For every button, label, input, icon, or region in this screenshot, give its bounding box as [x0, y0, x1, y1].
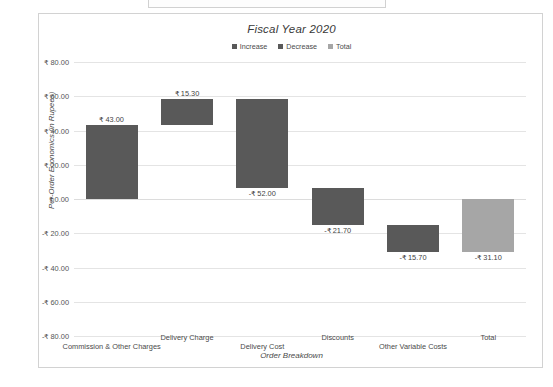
plot-area: ₹ 80.00₹ 60.00₹ 40.00₹ 20.00₹ 0.00-₹ 20.…	[74, 62, 526, 336]
bar-delivery-cost[interactable]	[236, 99, 288, 188]
legend-item-total: Total	[328, 42, 351, 51]
bar-delivery-charge[interactable]	[161, 99, 213, 125]
scan-edge-artifact	[148, 0, 386, 8]
y-axis-tick-label: ₹ 20.00	[44, 160, 69, 169]
gridline	[74, 268, 526, 269]
x-axis-tick-label: Total	[481, 333, 497, 342]
x-axis-title: Order Breakdown	[39, 351, 544, 360]
y-axis-tick-label: -₹ 40.00	[42, 263, 69, 272]
y-axis-tick-label: ₹ 60.00	[44, 92, 69, 101]
bar-commission-other-charges[interactable]	[86, 125, 138, 199]
bar-value-label: ₹ 43.00	[99, 115, 124, 124]
bar-other-variable-costs[interactable]	[387, 225, 439, 252]
bar-value-label: -₹ 15.70	[399, 253, 426, 262]
legend-item-decrease: Decrease	[278, 42, 317, 51]
y-axis-tick-label: -₹ 80.00	[42, 332, 69, 341]
bar-value-label: -₹ 31.10	[475, 253, 502, 262]
bar-value-label: ₹ 15.30	[175, 89, 200, 98]
y-axis-tick-label: ₹ 80.00	[44, 58, 69, 67]
legend-item-increase: Increase	[232, 42, 268, 51]
y-axis-title: Per-Order Economics (in Rupees)	[47, 92, 56, 209]
y-axis-tick-label: ₹ 0.00	[49, 195, 69, 204]
chart-legend: IncreaseDecreaseTotal	[39, 42, 544, 51]
gridline	[74, 336, 526, 337]
legend-item-label: Total	[336, 42, 351, 51]
legend-item-label: Decrease	[286, 42, 317, 51]
gridline	[74, 131, 526, 132]
gridline	[74, 165, 526, 166]
gridline	[74, 199, 526, 200]
bar-value-label: -₹ 21.70	[324, 226, 351, 235]
x-axis-tick-label: Commission & Other Charges	[63, 342, 161, 351]
x-axis-tick-label: Delivery Cost	[240, 342, 284, 351]
legend-swatch-icon	[278, 44, 283, 49]
legend-item-label: Increase	[240, 42, 268, 51]
y-axis-tick-label: ₹ 40.00	[44, 126, 69, 135]
y-axis-tick-label: -₹ 60.00	[42, 297, 69, 306]
gridline	[74, 302, 526, 303]
x-axis-tick-label: Delivery Charge	[161, 333, 214, 342]
bar-total[interactable]	[462, 199, 514, 252]
gridline	[74, 233, 526, 234]
bar-discounts[interactable]	[312, 188, 364, 225]
x-axis-tick-label: Discounts	[321, 333, 353, 342]
y-axis-tick-label: -₹ 20.00	[42, 229, 69, 238]
waterfall-chart: Fiscal Year 2020 IncreaseDecreaseTotal P…	[38, 13, 543, 368]
chart-title: Fiscal Year 2020	[39, 23, 544, 35]
x-axis-tick-label: Other Variable Costs	[379, 342, 447, 351]
legend-swatch-icon	[328, 44, 333, 49]
legend-swatch-icon	[232, 44, 237, 49]
gridline	[74, 96, 526, 97]
bar-value-label: -₹ 52.00	[249, 189, 276, 198]
gridline	[74, 62, 526, 63]
